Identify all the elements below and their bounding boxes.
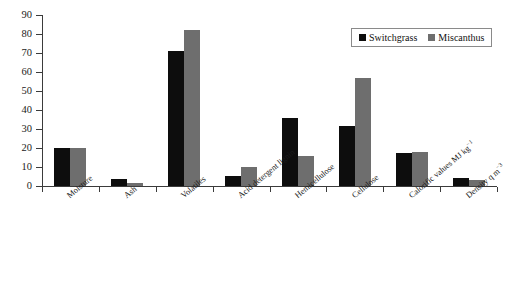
y-axis-tick-label: 70: [2, 48, 32, 59]
bar-switchgrass-0: [54, 148, 70, 186]
y-axis-tick-label: 50: [2, 86, 32, 97]
x-axis-tick: [99, 187, 100, 192]
bar-switchgrass-2: [168, 51, 184, 186]
y-axis-tick-label: 80: [2, 29, 32, 40]
x-axis-tick: [213, 187, 214, 192]
x-axis-tick: [156, 187, 157, 192]
x-axis-tick: [440, 187, 441, 192]
bar-switchgrass-1: [111, 179, 127, 186]
bar-switchgrass-6: [396, 153, 412, 186]
y-axis-tick-label: 20: [2, 143, 32, 154]
chart-legend: Switchgrass Miscanthus: [351, 28, 492, 47]
legend-item-miscanthus: Miscanthus: [428, 33, 484, 43]
y-axis-tick-label: 90: [2, 10, 32, 21]
bar-switchgrass-7: [453, 178, 469, 186]
x-axis-tick: [497, 187, 498, 192]
bar-miscanthus-5: [355, 78, 371, 186]
legend-item-switchgrass: Switchgrass: [359, 33, 417, 43]
bar-switchgrass-5: [339, 126, 355, 186]
black-square-swatch-icon: [359, 34, 366, 41]
y-axis-tick-label: 40: [2, 105, 32, 116]
y-axis-tick-label: 0: [2, 181, 32, 192]
y-axis-tick-label: 10: [2, 162, 32, 173]
x-axis-label: Ash: [123, 185, 139, 200]
bar-chart: 0102030405060708090 MoistureAshVolatiles…: [0, 0, 514, 287]
x-axis-tick: [270, 187, 271, 192]
y-axis-tick-label: 60: [2, 67, 32, 78]
x-axis-tick: [326, 187, 327, 192]
bar-miscanthus-2: [184, 30, 200, 186]
gray-square-swatch-icon: [428, 34, 435, 41]
legend-label-miscanthus: Miscanthus: [438, 33, 484, 43]
legend-label-switchgrass: Switchgrass: [369, 33, 417, 43]
x-axis-tick: [383, 187, 384, 192]
bar-switchgrass-3: [225, 176, 241, 186]
y-axis-tick-label: 30: [2, 124, 32, 135]
x-axis-tick: [42, 187, 43, 192]
